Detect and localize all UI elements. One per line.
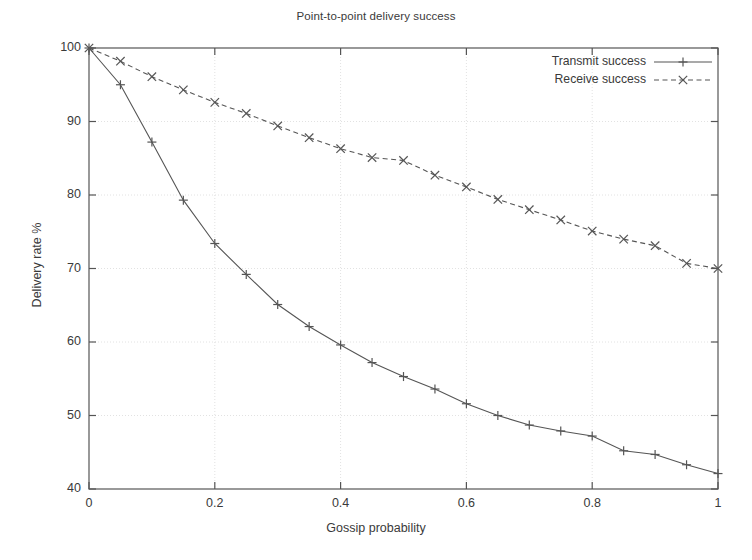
y-tick-label: 90 (39, 114, 81, 128)
y-tick-label: 80 (39, 187, 81, 201)
y-tick-label: 60 (39, 334, 81, 348)
x-tick-label: 0.2 (185, 496, 245, 510)
legend-item-label: Transmit success (466, 54, 646, 68)
legend-samples (654, 58, 712, 85)
x-tick-label: 0.8 (562, 496, 622, 510)
y-tick-label: 50 (39, 408, 81, 422)
x-tick-label: 0.6 (436, 496, 496, 510)
y-tick-label: 100 (39, 40, 81, 54)
chart-figure: Point-to-point delivery success Delivery… (0, 0, 752, 560)
series-line (89, 48, 718, 474)
series-1 (85, 44, 723, 479)
x-tick-label: 1 (688, 496, 748, 510)
x-tick-label: 0.4 (311, 496, 371, 510)
y-tick-label: 70 (39, 261, 81, 275)
y-tick-label: 40 (39, 481, 81, 495)
legend-item-label: Receive success (466, 72, 646, 86)
x-tick-label: 0 (59, 496, 119, 510)
